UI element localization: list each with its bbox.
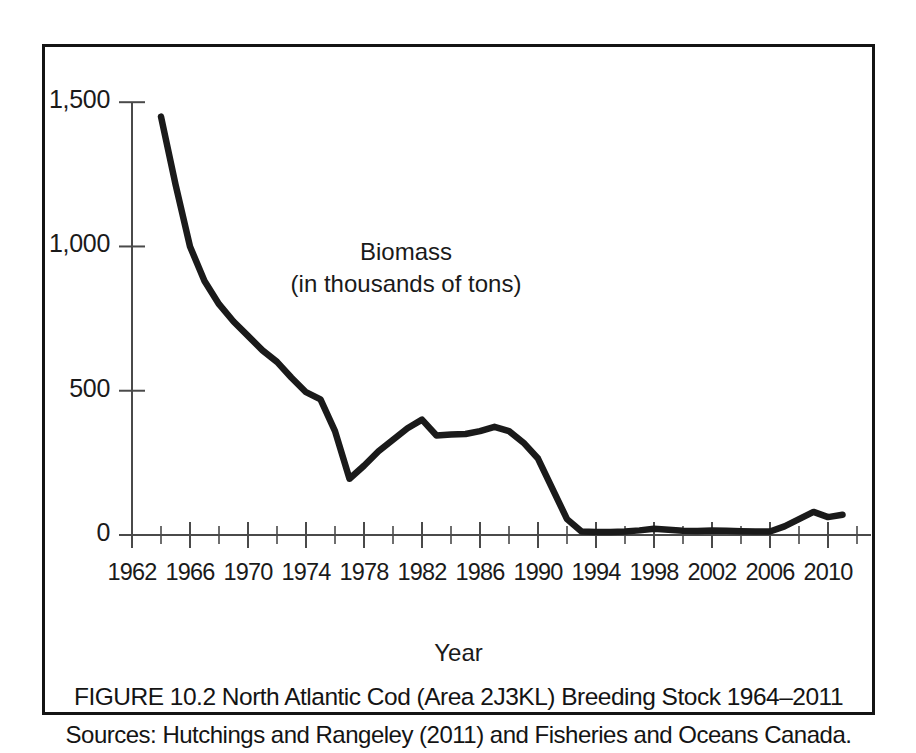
annotation-line-2: (in thousands of tons) (241, 268, 571, 300)
plot-area: 05001,0001,50019621966197019741978198219… (45, 47, 872, 607)
caption-block: FIGURE 10.2 North Atlantic Cod (Area 2J3… (45, 678, 872, 753)
chart-svg (45, 47, 872, 607)
annotation-line-1: Biomass (241, 236, 571, 268)
x-tick-label: 2010 (788, 559, 868, 586)
y-tick-label: 1,000 (49, 229, 110, 258)
caption-title: FIGURE 10.2 North Atlantic Cod (Area 2J3… (45, 678, 872, 716)
series-annotation: Biomass (in thousands of tons) (241, 236, 571, 300)
figure-frame: 05001,0001,50019621966197019741978198219… (42, 44, 875, 715)
y-tick-label: 500 (69, 374, 110, 403)
caption-sources: Sources: Hutchings and Rangeley (2011) a… (45, 716, 872, 753)
x-axis-title: Year (45, 639, 872, 667)
y-tick-label: 1,500 (49, 85, 110, 114)
y-tick-label: 0 (96, 518, 110, 547)
